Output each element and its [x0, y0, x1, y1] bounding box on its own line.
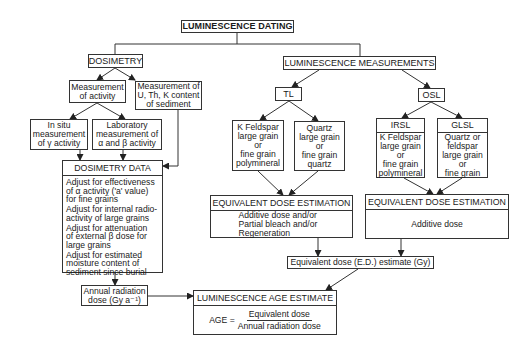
header-text: DOSIMETRY DATA	[74, 164, 151, 173]
osl-ede-header: EQUIVALENT DOSE ESTIMATION	[366, 195, 508, 210]
glsl-body: Quartz or feldspar large grain or fine g…	[438, 133, 487, 178]
label-text: OSL	[422, 91, 440, 100]
text-line: for fine grains	[66, 195, 159, 204]
adjustment-item: Adjust for effectiveness of α activity (…	[66, 178, 159, 204]
header-text: GLSL	[451, 121, 474, 130]
tl-box: TL	[275, 87, 302, 101]
text-line: sediment since burial	[66, 268, 159, 277]
text-line: activity of large grains	[66, 214, 159, 223]
osl-equivalent-dose-estimation-box: EQUIVALENT DOSE ESTIMATION Additive dose	[365, 194, 509, 239]
fraction-numerator: Equivalent dose	[247, 310, 312, 321]
tl-ede-header: EQUIVALENT DOSE ESTIMATION	[211, 196, 352, 211]
luminescence-age-estimate-box: LUMINESCENCE AGE ESTIMATE AGE = Equivale…	[193, 290, 337, 335]
measurement-of-activity-box: Measurement of activity	[69, 80, 126, 103]
text-line: polymineral	[236, 159, 280, 168]
fraction-denominator: Annual radiation dose	[238, 321, 321, 331]
age-equals-label: AGE =	[209, 316, 235, 325]
age-fraction: Equivalent dose Annual radiation dose	[238, 310, 321, 331]
adjustment-item: Adjust for estimated moisture content of…	[66, 251, 159, 277]
annual-radiation-dose-box: Annual radiation dose (Gy a⁻¹)	[81, 285, 148, 306]
age-formula: AGE = Equivalent dose Annual radiation d…	[194, 306, 336, 335]
irsl-header: IRSL	[377, 119, 424, 133]
text-line: large grains	[66, 241, 159, 250]
dosimetry-data-box: DOSIMETRY DATA Adjust for effectiveness …	[62, 160, 163, 273]
laboratory-alpha-beta-box: Laboratory measurement of α and β activi…	[92, 119, 162, 150]
measurement-utk-box: Measurement of U, Th, K content of sedim…	[135, 81, 202, 110]
luminescence-dating-title-box: LUMINESCENCE DATING	[181, 20, 294, 33]
tl-k-feldspar-box: K Feldspar large grain or fine grain pol…	[232, 120, 284, 171]
glsl-header: GLSL	[438, 119, 487, 133]
header-text: EQUIVALENT DOSE ESTIMATION	[213, 199, 351, 208]
dosimetry-data-items: Adjust for effectiveness of α activity (…	[63, 176, 162, 280]
tl-quartz-box: Quartz large grain or fine grain quartz	[294, 121, 345, 171]
label-text: TL	[283, 90, 294, 99]
tl-equivalent-dose-estimation-box: EQUIVALENT DOSE ESTIMATION Additive dose…	[210, 195, 353, 238]
text-line: dose (Gy a⁻¹)	[88, 296, 141, 305]
dosimetry-label: DOSIMETRY	[89, 57, 142, 66]
equivalent-dose-estimate-box: Equivalent dose (E.D.) estimate (Gy)	[287, 256, 434, 269]
header-text: EQUIVALENT DOSE ESTIMATION	[368, 198, 506, 207]
text-line: fine grain	[445, 169, 480, 178]
text-line: Regeneration	[239, 229, 325, 238]
text-line: of sediment	[146, 100, 190, 109]
luminescence-measurements-box: LUMINESCENCE MEASUREMENTS	[283, 56, 436, 70]
osl-box: OSL	[418, 88, 445, 102]
text-line: of activity	[80, 92, 116, 101]
irsl-body: K Feldspar large grain or fine grain pol…	[377, 133, 424, 178]
osl-ede-body: Additive dose	[366, 210, 508, 239]
text-line: α and β activity	[98, 139, 156, 148]
text-line: Additive dose	[411, 220, 463, 229]
text-line: quartz	[308, 160, 332, 169]
adjustment-item: Adjust for internal radio- activity of l…	[66, 205, 159, 222]
label-text: Equivalent dose (E.D.) estimate (Gy)	[291, 258, 431, 267]
text-line: of γ activity	[38, 139, 81, 148]
title-text: LUMINESCENCE DATING	[182, 22, 292, 31]
glsl-box: GLSL Quartz or feldspar large grain or f…	[437, 118, 488, 178]
dosimetry-box: DOSIMETRY	[88, 54, 143, 68]
header-text: IRSL	[391, 121, 411, 130]
text-line: polymineral	[379, 169, 423, 178]
dosimetry-data-header: DOSIMETRY DATA	[63, 161, 162, 176]
irsl-box: IRSL K Feldspar large grain or fine grai…	[376, 118, 425, 178]
in-situ-gamma-box: In situ measurement of γ activity	[30, 119, 88, 150]
tl-ede-body: Additive dose and/or Partial bleach and/…	[211, 211, 352, 238]
label-text: LUMINESCENCE MEASUREMENTS	[284, 59, 434, 68]
header-text: LUMINESCENCE AGE ESTIMATE	[197, 294, 333, 303]
age-header: LUMINESCENCE AGE ESTIMATE	[194, 291, 336, 306]
adjustment-item: Adjust for attenuation of external β dos…	[66, 224, 159, 250]
